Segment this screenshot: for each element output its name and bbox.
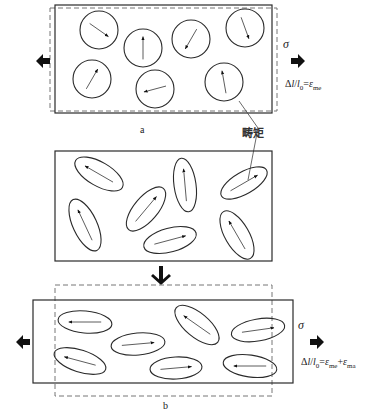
magnetic-domain [205,63,243,101]
magnetic-domain [226,9,264,47]
domain-moment-arrow-icon [230,175,257,191]
domain-moment-arrow-icon [122,343,154,346]
magnetic-domain [213,206,261,265]
magnetic-domain [216,160,272,205]
panel-b-left-load-arrow-icon [16,335,30,349]
domain-moment-arrow-icon [78,210,92,240]
domain-moment-arrow-icon [154,236,185,244]
domain-moment-arrow-icon [136,197,157,222]
panel-b-label: b [163,400,168,411]
domain-moment-arrow-icon [241,17,249,38]
domain-moment-arrow-icon [185,29,196,49]
domain-moment-arrow-icon [144,86,166,92]
magnetic-domain [73,60,111,98]
magnetic-domain [141,221,199,258]
domain-moment-arrow-icon [184,169,187,201]
panel-a-stress-symbol: σ [283,37,289,52]
eq-epsilon-sub: me [313,84,322,92]
panel-a-right-load-arrow-icon [291,54,305,68]
magnetic-domain [110,331,166,358]
magnetic-domain [136,70,174,108]
magnetic-domain [124,29,162,67]
domain-moment-arrow-icon [184,316,211,335]
magnetic-domain [70,150,129,198]
panel-middle-domains [62,150,272,264]
panel-b-stress-symbol: σ [298,318,304,333]
magnetic-domain [170,157,199,214]
panel-a-left-load-arrow-icon [36,54,50,68]
panel-b-domains [51,298,287,380]
domain-moment-arrow-icon [85,166,113,182]
domain-moment-arrow-icon [90,23,109,36]
magnetic-domain [172,20,210,58]
magnetic-domain [62,195,107,256]
magnetic-domain [222,351,279,380]
panel-b [33,285,293,396]
magnetic-domain [51,342,109,380]
panel-b-right-load-arrow-icon [310,335,324,349]
domain-moment-arrow-icon [64,357,95,365]
magnetic-domain [230,314,287,345]
panel-a [50,5,277,113]
domain-moment-arrow-icon [86,69,97,89]
panel-middle [55,150,272,264]
panel-a-label: a [140,124,144,135]
magnetic-domain [80,11,118,49]
load-arrows [16,54,324,349]
panel-a-domains [73,9,264,108]
domain-moment-arrow-icon [160,367,191,370]
panel-a-specimen [55,5,272,113]
transition-down-arrow-icon [152,266,170,283]
magnetic-domain [169,298,226,351]
domain-moment-arrow-icon [242,328,274,333]
magnetic-domain [149,356,202,381]
panel-b-strain-equation: Δl/l0=εme+εma [301,356,356,370]
eq-epsilon2-sub: ma [347,362,356,370]
domain-moment-arrow-icon [222,71,226,93]
domain-moment-arrow-icon [229,221,245,249]
magnetic-domain [57,309,113,336]
domain-moment-annotation: 畴矩 [242,124,264,140]
panel-a-strain-equation: Δl/l0=εme [285,78,321,92]
